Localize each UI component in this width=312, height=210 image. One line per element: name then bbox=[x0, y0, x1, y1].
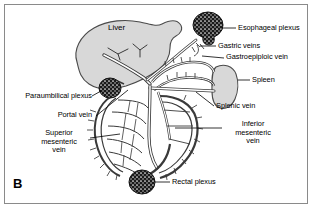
label-superior-mesenteric-vein: Superior mesenteric vein bbox=[30, 129, 88, 155]
gastric-tributaries bbox=[192, 43, 204, 56]
label-gastroepiploic-vein: Gastroepiploic vein bbox=[226, 53, 288, 62]
label-spleen: Spleen bbox=[252, 76, 275, 85]
panel-letter: B bbox=[13, 176, 22, 191]
rectal-plexus-mass bbox=[129, 170, 155, 194]
smv-line-3: vein bbox=[30, 146, 88, 155]
figure-panel: Liver Esophageal plexus Gastric veins Ga… bbox=[0, 0, 312, 210]
leader-gastroepiploic bbox=[202, 56, 224, 58]
liver-shape bbox=[76, 20, 182, 88]
label-esophageal-plexus: Esophageal plexus bbox=[238, 24, 300, 33]
colon-loop-outer bbox=[160, 96, 198, 178]
label-portal-vein: Portal vein bbox=[28, 111, 92, 120]
label-liver: Liver bbox=[108, 24, 125, 33]
arcade-connectors bbox=[121, 101, 138, 166]
paraumbilical-plexus-mass bbox=[99, 78, 121, 98]
label-gastric-veins: Gastric veins bbox=[218, 42, 260, 51]
imv-line-3: vein bbox=[222, 137, 284, 146]
label-rectal-plexus: Rectal plexus bbox=[172, 178, 216, 187]
leader-splenic bbox=[196, 92, 214, 106]
inferior-mesenteric-vein bbox=[158, 92, 170, 140]
label-inferior-mesenteric-vein: Inferior mesenteric vein bbox=[222, 120, 284, 146]
label-paraumbilical-plexus: Paraumbilical plexus bbox=[8, 92, 92, 101]
leader-paraumbilical bbox=[92, 91, 101, 96]
label-splenic-vein: Splenic vein bbox=[216, 102, 255, 111]
